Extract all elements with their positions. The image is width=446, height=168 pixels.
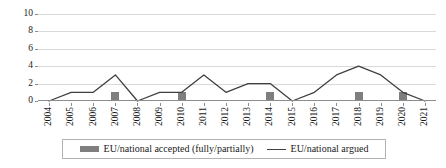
legend-label-argued: EU/national argued bbox=[291, 144, 369, 154]
x-tick-label: 2009 bbox=[155, 107, 165, 126]
x-tick-label: 2013 bbox=[243, 107, 253, 126]
line-swatch-icon bbox=[267, 149, 286, 150]
x-tick-2020: 2020 bbox=[392, 103, 414, 145]
x-tick-label: 2014 bbox=[265, 107, 275, 126]
x-tick-mark bbox=[115, 103, 116, 106]
y-tick-label: 8 bbox=[28, 27, 33, 37]
x-tick-mark bbox=[160, 103, 161, 106]
x-tick-mark bbox=[292, 103, 293, 106]
x-tick-label: 2012 bbox=[221, 107, 231, 126]
plot-area: 0246810 bbox=[38, 14, 436, 101]
x-tick-label: 2007 bbox=[111, 107, 121, 126]
x-tick-label: 2018 bbox=[354, 107, 364, 126]
y-tick-label: 2 bbox=[28, 79, 33, 89]
legend-item-argued: EU/national argued bbox=[267, 144, 369, 154]
x-tick-label: 2005 bbox=[66, 107, 76, 126]
x-tick-label: 2017 bbox=[332, 107, 342, 126]
x-tick-mark bbox=[314, 103, 315, 106]
x-tick-mark bbox=[226, 103, 227, 106]
x-tick-2004: 2004 bbox=[38, 103, 60, 145]
y-tick-mark bbox=[35, 101, 38, 102]
x-tick-label: 2021 bbox=[420, 107, 430, 126]
x-tick-mark bbox=[270, 103, 271, 106]
y-tick-label: 10 bbox=[24, 9, 34, 19]
line-series-eu-national-argued bbox=[38, 14, 436, 101]
x-tick-mark bbox=[93, 103, 94, 106]
x-tick-label: 2020 bbox=[398, 107, 408, 126]
x-tick-mark bbox=[336, 103, 337, 106]
chart-legend: EU/national accepted (fully/partially) E… bbox=[62, 139, 386, 159]
x-tick-label: 2011 bbox=[199, 107, 209, 126]
x-tick-mark bbox=[359, 103, 360, 106]
legend-label-accepted: EU/national accepted (fully/partially) bbox=[104, 144, 254, 154]
x-tick-mark bbox=[71, 103, 72, 106]
x-tick-mark bbox=[425, 103, 426, 106]
x-tick-label: 2015 bbox=[288, 107, 298, 126]
x-tick-2021: 2021 bbox=[414, 103, 436, 145]
x-tick-mark bbox=[204, 103, 205, 106]
legend-item-accepted: EU/national accepted (fully/partially) bbox=[80, 144, 254, 154]
x-tick-mark bbox=[137, 103, 138, 106]
bar-swatch-icon bbox=[80, 146, 99, 152]
x-tick-label: 2016 bbox=[310, 107, 320, 126]
x-tick-mark bbox=[49, 103, 50, 106]
x-tick-mark bbox=[381, 103, 382, 106]
x-tick-label: 2006 bbox=[89, 107, 99, 126]
x-axis-baseline bbox=[38, 100, 436, 101]
x-tick-label: 2010 bbox=[177, 107, 187, 126]
x-tick-mark bbox=[248, 103, 249, 106]
x-tick-mark bbox=[182, 103, 183, 106]
line-path bbox=[49, 66, 425, 101]
x-tick-label: 2019 bbox=[376, 107, 386, 126]
x-tick-mark bbox=[403, 103, 404, 106]
x-tick-label: 2008 bbox=[133, 107, 143, 126]
x-tick-label: 2004 bbox=[44, 107, 54, 126]
y-tick-label: 6 bbox=[28, 44, 33, 54]
y-tick-label: 0 bbox=[28, 96, 33, 106]
y-tick-label: 4 bbox=[28, 61, 33, 71]
chart-container: 0246810 20042005200620072008200920102011… bbox=[0, 0, 446, 168]
